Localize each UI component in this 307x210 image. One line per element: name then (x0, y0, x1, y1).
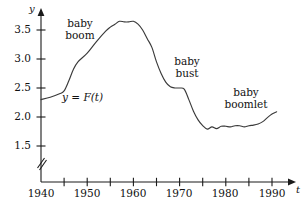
birth-rate-chart: 3.5 3.0 2.5 2.0 1.5 1940 1950 1960 1970 … (0, 0, 307, 210)
y-tick-label-3-5: 3.5 (5, 24, 31, 36)
annotation-baby-boomlet-line1: baby (215, 87, 277, 99)
x-tick-label-1940: 1940 (21, 188, 61, 200)
y-tick-label-3-0: 3.0 (5, 53, 31, 65)
annotation-baby-boom-line2: boom (57, 30, 103, 42)
x-tick-label-1960: 1960 (113, 188, 153, 200)
y-axis-label: y (29, 3, 35, 14)
x-tick-label-1980: 1980 (205, 188, 245, 200)
annotation-baby-boomlet: baby boomlet (215, 87, 277, 111)
annotation-baby-boom: baby boom (57, 18, 103, 42)
annotation-baby-boomlet-line2: boomlet (215, 99, 277, 111)
y-axis-break-icon (38, 158, 47, 170)
annotation-baby-boom-line1: baby (57, 18, 103, 30)
annotation-baby-bust: baby bust (166, 56, 208, 80)
x-tick-label-1950: 1950 (67, 188, 107, 200)
x-axis-label: t (296, 184, 300, 195)
y-axis-arrow-icon (38, 8, 45, 16)
y-tick-label-2-0: 2.0 (5, 111, 31, 123)
x-tick-label-1990: 1990 (252, 188, 292, 200)
x-axis-arrow-icon (288, 179, 296, 186)
y-tick-label-1-5: 1.5 (5, 140, 31, 152)
annotation-baby-bust-line2: bust (166, 68, 208, 80)
y-tick-label-2-5: 2.5 (5, 82, 31, 94)
function-equation-label: y = F(t) (62, 92, 103, 104)
annotation-baby-bust-line1: baby (166, 56, 208, 68)
x-tick-label-1970: 1970 (159, 188, 199, 200)
